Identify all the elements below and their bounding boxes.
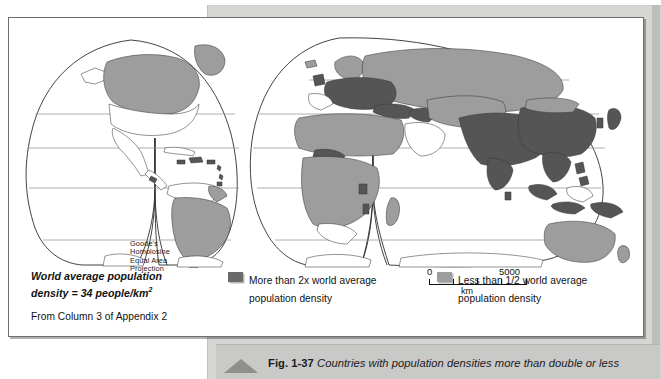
legend-label-low-density: Less than 1/2 world average population d…: [458, 275, 587, 304]
figure-container: Goode's Homolosine Equal Area Projection…: [8, 17, 644, 337]
triangle-icon: [224, 359, 258, 373]
world-map[interactable]: Goode's Homolosine Equal Area Projection…: [9, 18, 643, 268]
world-average-text: World average populationdensity = 34 peo…: [31, 270, 167, 300]
world-average-exponent: 2: [148, 286, 152, 293]
world-average-line1: World average population: [31, 270, 162, 282]
figure-caption: Fig. 1-37 Countries with population dens…: [268, 357, 619, 369]
figure-caption-body: Countries with population densities more…: [317, 357, 619, 369]
figure-caption-number: Fig. 1-37: [268, 357, 314, 369]
world-average-line2: density = 34 people/km: [31, 287, 148, 299]
source-note: From Column 3 of Appendix 2: [31, 311, 167, 322]
legend-entry-low[interactable]: Less than 1/2 world average population d…: [437, 270, 587, 306]
legend-entry-high[interactable]: More than 2x world average population de…: [228, 270, 377, 306]
legend-label-high-density: More than 2x world average population de…: [249, 275, 377, 304]
map-legend: World average populationdensity = 34 peo…: [9, 270, 643, 334]
page-panel-edge: [652, 5, 660, 378]
figure-caption-bar: Fig. 1-37 Countries with population dens…: [216, 344, 660, 379]
projection-label: Goode's Homolosine Equal Area Projection: [130, 240, 170, 274]
legend-swatch-high-density: [228, 272, 243, 282]
legend-summary: World average populationdensity = 34 peo…: [31, 270, 167, 322]
legend-swatch-low-density: [437, 272, 452, 282]
world-map-svg: [9, 18, 643, 268]
